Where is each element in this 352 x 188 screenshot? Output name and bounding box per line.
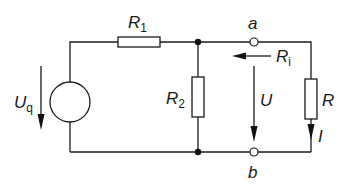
junction-dot-bottom bbox=[195, 149, 201, 155]
source-voltage-label: Uq bbox=[14, 93, 33, 115]
terminal-a bbox=[250, 38, 258, 46]
load-label: R bbox=[322, 91, 334, 110]
circuit-diagram: Uq R1 R2 a b Ri U R I bbox=[0, 0, 352, 188]
r1-label: R1 bbox=[128, 13, 147, 35]
terminal-b bbox=[250, 148, 258, 156]
terminal-a-label: a bbox=[248, 14, 257, 33]
internal-resistance-arrow-icon bbox=[232, 53, 271, 60]
resistor-r1 bbox=[118, 37, 160, 47]
r2-label: R2 bbox=[166, 89, 185, 111]
internal-resistance-label: Ri bbox=[276, 47, 291, 69]
wires bbox=[70, 42, 311, 152]
terminal-b-label: b bbox=[248, 163, 257, 182]
junction-dot-top bbox=[195, 39, 201, 45]
current-label: I bbox=[318, 127, 323, 146]
voltage-source-symbol bbox=[50, 82, 90, 122]
source-voltage-arrow-icon bbox=[38, 66, 45, 130]
terminal-voltage-arrow-icon bbox=[251, 66, 258, 142]
resistor-r2 bbox=[192, 77, 204, 117]
resistor-load bbox=[305, 79, 317, 119]
terminal-voltage-label: U bbox=[260, 91, 273, 110]
current-arrow-icon bbox=[308, 124, 315, 140]
